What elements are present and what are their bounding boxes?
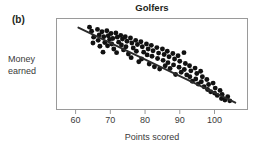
data-point <box>199 79 204 84</box>
data-point <box>95 27 100 32</box>
data-point <box>134 49 139 54</box>
data-point <box>105 43 110 48</box>
data-point <box>140 44 145 49</box>
data-point <box>100 29 105 34</box>
data-point <box>176 53 181 58</box>
data-point <box>170 51 175 56</box>
data-point <box>204 77 209 82</box>
x-axis-tick-label: 80 <box>131 116 159 126</box>
data-point <box>160 47 165 52</box>
data-point <box>198 69 203 74</box>
data-point <box>155 56 160 61</box>
data-point <box>182 67 187 72</box>
x-axis-label: Points scored <box>56 133 248 143</box>
data-point <box>177 59 182 64</box>
data-point <box>91 41 96 46</box>
data-point <box>213 86 218 91</box>
data-point <box>183 61 188 66</box>
data-point <box>177 65 182 70</box>
data-point <box>97 44 102 49</box>
x-axis-tick-label: 90 <box>166 116 194 126</box>
data-point <box>101 50 106 55</box>
x-axis-ticks <box>76 110 215 115</box>
data-point <box>211 81 216 86</box>
data-point <box>110 36 115 41</box>
data-point <box>144 42 149 47</box>
chart-title: Golfers <box>56 3 248 13</box>
data-point <box>123 34 128 39</box>
data-point <box>129 55 134 60</box>
data-point <box>182 50 187 55</box>
y-axis-label-line2: earned <box>8 65 54 77</box>
data-point <box>167 54 172 59</box>
data-point <box>187 63 192 68</box>
data-point <box>109 31 114 36</box>
data-point <box>104 28 109 33</box>
y-axis-label-line1: Money <box>8 53 54 65</box>
data-point <box>161 58 166 63</box>
data-point <box>151 48 156 53</box>
data-point <box>188 68 193 73</box>
data-point <box>149 43 154 48</box>
data-point <box>200 74 205 79</box>
data-point <box>124 44 129 49</box>
y-axis-label: Money earned <box>8 53 54 77</box>
data-point <box>206 82 211 87</box>
data-point <box>166 60 171 65</box>
panel-label: (b) <box>12 15 25 25</box>
data-point <box>156 51 161 56</box>
figure-container: (b) Golfers Money earned 60708090100 Poi… <box>0 0 262 161</box>
x-axis-tick-label: 70 <box>96 116 124 126</box>
data-point <box>187 74 192 79</box>
data-point <box>145 52 150 57</box>
data-point <box>114 50 119 55</box>
data-point <box>154 45 159 50</box>
data-point <box>193 66 198 71</box>
data-point <box>138 39 143 44</box>
data-point <box>128 36 133 41</box>
data-point <box>165 49 170 54</box>
x-axis-tick-label: 100 <box>201 116 229 126</box>
data-point <box>171 62 176 67</box>
x-axis-tick-label: 60 <box>62 116 90 126</box>
data-point <box>193 77 198 82</box>
data-point <box>150 54 155 59</box>
